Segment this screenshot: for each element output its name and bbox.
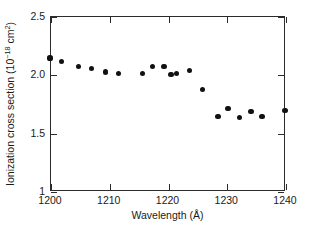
x-tick-label-1210: 1210 (87, 194, 131, 206)
y-axis-label-container: Ionization cross section (10−18 cm2) (2, 16, 18, 191)
x-tick-label-1230: 1230 (204, 194, 248, 206)
x-tick-top-1210 (110, 17, 111, 23)
y-axis-label-unit: cm (4, 29, 16, 46)
plot-axes-frame (50, 16, 285, 191)
y-axis-label-exponent: −18 (3, 46, 12, 58)
x-tick-top-1220 (169, 17, 170, 23)
x-tick-1210 (110, 184, 111, 190)
y-tick-2.0 (51, 75, 57, 76)
y-tick-1.5 (51, 134, 57, 135)
x-tick-1230 (227, 184, 228, 190)
y-tick-right-2.5 (278, 17, 284, 18)
x-tick-label-1240: 1240 (263, 194, 307, 206)
y-axis-label-close-paren: ) (4, 22, 16, 26)
x-tick-1200 (51, 184, 52, 190)
chart-figure: 12001210122012301240 11.52.02.5 Waveleng… (0, 0, 314, 236)
y-tick-right-1 (278, 192, 284, 193)
y-tick-2.5 (51, 17, 57, 18)
x-tick-label-1220: 1220 (146, 194, 190, 206)
y-axis-label-main: Ionization cross section (10 (4, 58, 16, 185)
x-tick-top-1240 (286, 17, 287, 23)
x-tick-1220 (169, 184, 170, 190)
x-tick-top-1230 (227, 17, 228, 23)
x-tick-1240 (286, 184, 287, 190)
x-axis-label: Wavelength (Å) (50, 209, 285, 221)
y-tick-1 (51, 192, 57, 193)
y-tick-right-1.5 (278, 134, 284, 135)
y-tick-right-2.0 (278, 75, 284, 76)
y-axis-label: Ionization cross section (10−18 cm2) (4, 22, 16, 186)
